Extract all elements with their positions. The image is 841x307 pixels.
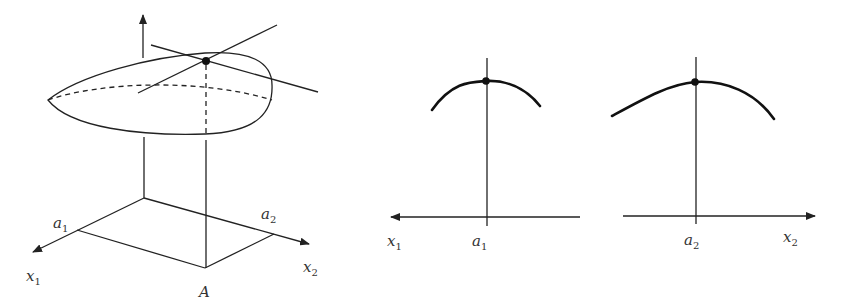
label-a1: a1 bbox=[472, 232, 487, 252]
max-point-dot-icon bbox=[202, 57, 210, 65]
label-a2: a2 bbox=[684, 231, 699, 251]
surface-back-dashed-edge bbox=[48, 85, 272, 100]
label-a2: a2 bbox=[261, 205, 276, 225]
x2-section-curve bbox=[612, 82, 774, 119]
label-x2: x2 bbox=[783, 228, 798, 248]
left-3d-panel: a1 a2 x1 x2 A bbox=[26, 15, 318, 301]
label-A: A bbox=[197, 283, 210, 301]
diagram-canvas: a1 a2 x1 x2 A x1 a1 a2 x2 bbox=[0, 0, 841, 307]
floor-edge-a1-A bbox=[77, 230, 205, 268]
right-x2-section-panel: a2 x2 bbox=[612, 57, 815, 251]
label-x1: x1 bbox=[26, 267, 41, 287]
label-x2: x2 bbox=[303, 258, 318, 278]
floor-edge-A-a2 bbox=[205, 234, 274, 268]
label-x1: x1 bbox=[387, 232, 402, 252]
x1-axis-arrow-icon bbox=[33, 198, 144, 252]
surface-outline bbox=[48, 53, 272, 135]
x1-section-curve bbox=[432, 81, 540, 110]
x2-axis-arrow-icon bbox=[144, 198, 309, 244]
middle-x1-section-panel: x1 a1 bbox=[387, 58, 580, 252]
max-point-dot-icon bbox=[691, 78, 699, 86]
max-point-dot-icon bbox=[482, 77, 490, 85]
label-a1: a1 bbox=[53, 214, 68, 234]
